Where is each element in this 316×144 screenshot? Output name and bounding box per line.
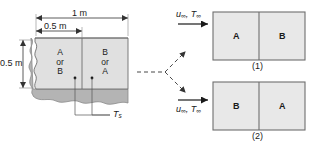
slab-right-block-label: B or A — [93, 48, 117, 77]
panel-2-temp-subscript: ∞ — [196, 107, 201, 114]
panel-1-flow-conditions-label: u∞, T∞ — [176, 10, 201, 20]
panel-1-right-material: B — [279, 32, 286, 41]
dimension-label-width: 1 m — [72, 9, 87, 18]
slab-left-block-label: A or B — [48, 48, 72, 77]
panel-1-caption: (1) — [252, 62, 263, 71]
panel-1-temp-subscript: ∞ — [196, 12, 201, 19]
dimension-label-height: 0.5 m — [0, 59, 23, 68]
surface-temp-subscript: s — [119, 112, 122, 119]
panel-2-caption: (2) — [252, 132, 263, 141]
heat-transfer-figure: 1 m 0.5 m 0.5 m A or B B or A Ts u∞, T∞ … — [0, 0, 316, 144]
panel-2-flow-conditions-label: u∞, T∞ — [176, 105, 201, 115]
surface-temperature-label: Ts — [113, 110, 122, 120]
slab-right-line3: A — [93, 67, 117, 77]
panel-2-right-material: A — [279, 102, 286, 111]
panel-1-left-material: A — [233, 32, 240, 41]
panel-2-left-material: B — [233, 102, 240, 111]
dimension-label-halfwidth: 0.5 m — [44, 22, 67, 31]
slab-left-line3: B — [48, 67, 72, 77]
dashed-branch-connector — [137, 52, 185, 92]
